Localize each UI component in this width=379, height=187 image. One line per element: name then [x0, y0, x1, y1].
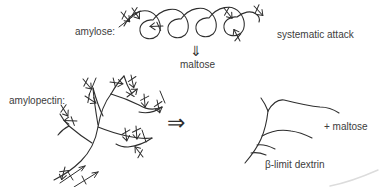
attack-arrow: [58, 166, 70, 181]
attack-tick: [142, 130, 146, 142]
attack-tick: [160, 91, 165, 103]
attack-arrow: [74, 172, 98, 187]
scan-edge-artifact: [330, 170, 378, 186]
attack-arrow: [124, 85, 139, 100]
amylopectin-tree-drawing: [54, 76, 162, 180]
attack-arrow: [129, 5, 143, 21]
amylose-helix-drawing: [124, 7, 259, 38]
beta-limit-dextrin-drawing: [245, 98, 339, 163]
attack-arrow: [121, 127, 131, 141]
attack-tick: [89, 78, 96, 95]
attack-arrow: [127, 74, 138, 88]
attack-arrow: [140, 94, 150, 108]
figure-canvas: amylose: systematic attack ⇓ maltose amy…: [0, 0, 379, 187]
hand-drawn-figure: [0, 0, 379, 187]
attack-arrow: [150, 22, 163, 31]
attack-arrow: [64, 117, 77, 126]
attack-arrow: [58, 103, 72, 119]
